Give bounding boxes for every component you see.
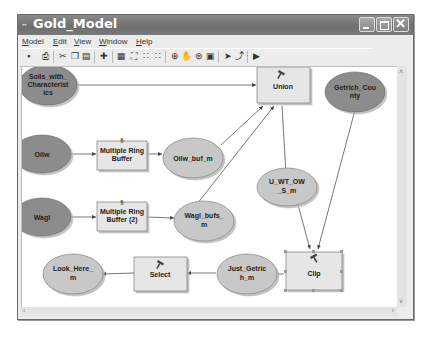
run-icon[interactable]: ▶ xyxy=(251,51,262,62)
title-bar[interactable]: ·· Gold_Model ✕ xyxy=(18,15,413,35)
model-icon: ·· xyxy=(22,20,26,30)
cut-icon[interactable]: ✂ xyxy=(57,51,68,62)
svg-text:Multiple Ring: Multiple Ring xyxy=(100,208,144,216)
maximize-icon xyxy=(380,21,389,30)
save-icon[interactable]: ▪ xyxy=(23,51,34,62)
copy-icon[interactable]: ❐ xyxy=(69,51,80,62)
svg-text:Clip: Clip xyxy=(307,270,320,278)
svg-text:Select: Select xyxy=(150,271,171,278)
svg-text:U_WT_OW: U_WT_OW xyxy=(269,178,305,185)
toolbar-separator xyxy=(218,51,219,63)
toolbar-separator xyxy=(53,51,54,63)
size-grip[interactable] xyxy=(397,307,407,317)
svg-text:Characterist: Characterist xyxy=(28,81,70,88)
scroll-left-arrow[interactable]: ‹ xyxy=(23,307,25,314)
fixed-zoom-in-icon[interactable]: ∷ xyxy=(140,51,151,62)
overview-icon[interactable]: ⊛ xyxy=(193,51,204,62)
svg-text:Oilw: Oilw xyxy=(35,151,50,158)
properties-icon[interactable]: ▣ xyxy=(205,51,216,62)
horizontal-scrollbar[interactable]: ‹ › xyxy=(21,307,397,317)
model-canvas[interactable]: Soils_with_ Characterist ics Oilw Wagl G… xyxy=(21,66,398,309)
svg-text:Buffer: Buffer xyxy=(112,155,133,162)
scroll-down-arrow[interactable]: ˅ xyxy=(399,298,403,305)
svg-text:ics: ics xyxy=(43,89,53,96)
auto-layout-icon[interactable]: ▦ xyxy=(116,51,127,62)
svg-text:nty: nty xyxy=(350,92,361,100)
svg-text:Soils_with_: Soils_with_ xyxy=(29,73,68,80)
menu-window[interactable]: Window xyxy=(99,37,127,46)
minimize-button[interactable] xyxy=(359,17,375,32)
connect-icon[interactable]: ⤴ xyxy=(234,51,245,62)
svg-text:Look_Here_: Look_Here_ xyxy=(53,265,93,272)
toolbar-separator xyxy=(94,51,95,63)
fixed-zoom-out-icon[interactable]: ∷ xyxy=(152,51,163,62)
svg-text:Wagl_bufs_: Wagl_bufs_ xyxy=(184,212,223,220)
full-extent-icon[interactable]: ⛶ xyxy=(128,51,139,62)
toolbar: ▪ ⎙ ✂ ❐ ▤ ✚ ▦ ⛶ ∷ ∷ ⊕ ✋ ⊛ ▣ ➤ ⤴ ▶ xyxy=(20,48,373,67)
menu-help[interactable]: Help xyxy=(136,37,152,46)
add-data-icon[interactable]: ✚ xyxy=(98,51,109,62)
svg-text:Wagl: Wagl xyxy=(34,214,51,222)
svg-text:m: m xyxy=(70,274,76,281)
menu-model[interactable]: Model xyxy=(22,37,44,46)
pan-icon[interactable]: ✋ xyxy=(181,51,192,62)
close-icon: ✕ xyxy=(395,16,406,31)
vertical-scrollbar[interactable]: ˄ ˅ xyxy=(397,66,407,307)
minimize-icon xyxy=(363,27,369,29)
svg-text:_S_m: _S_m xyxy=(277,187,297,194)
close-button[interactable]: ✕ xyxy=(393,17,409,32)
maximize-button[interactable] xyxy=(376,17,392,32)
svg-text:Just_Getric: Just_Getric xyxy=(228,265,267,272)
svg-text:Union: Union xyxy=(273,83,293,90)
svg-text:m: m xyxy=(201,221,207,228)
svg-text:Oilw_buf_m: Oilw_buf_m xyxy=(173,155,213,162)
zoom-in-icon[interactable]: ⊕ xyxy=(169,51,180,62)
paste-icon[interactable]: ▤ xyxy=(81,51,92,62)
scroll-up-arrow[interactable]: ˄ xyxy=(399,68,403,75)
model-window: ·· Gold_Model ✕ Model Edit View Window H… xyxy=(17,14,414,320)
scroll-right-arrow[interactable]: › xyxy=(392,307,394,314)
select-icon[interactable]: ➤ xyxy=(222,51,233,62)
svg-text:Buffer (2): Buffer (2) xyxy=(106,216,137,224)
toolbar-separator xyxy=(165,51,166,63)
menu-edit[interactable]: Edit xyxy=(53,37,67,46)
svg-text:Getrich_Cou: Getrich_Cou xyxy=(334,84,376,91)
print-icon[interactable]: ⎙ xyxy=(40,51,51,62)
menu-bar: Model Edit View Window Help xyxy=(18,36,413,48)
toolbar-separator xyxy=(247,51,248,63)
svg-text:Multiple Ring: Multiple Ring xyxy=(100,147,144,155)
menu-view[interactable]: View xyxy=(74,37,91,46)
toolbar-separator xyxy=(112,51,113,63)
window-title: Gold_Model xyxy=(33,16,117,31)
svg-text:h_m: h_m xyxy=(240,274,254,281)
